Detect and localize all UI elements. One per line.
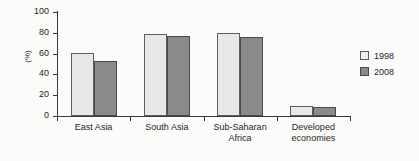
bar-2008-east-asia xyxy=(94,61,117,116)
x-axis-separator-tick xyxy=(277,117,278,121)
bar-2008-sub-saharan-africa xyxy=(240,37,263,116)
legend-swatch-icon xyxy=(360,67,369,76)
bar-2008-south-asia xyxy=(167,36,190,116)
bar-2008-developed-economies xyxy=(313,107,336,116)
y-axis-tick: 0 xyxy=(0,116,57,117)
x-axis-category-label: Developed economies xyxy=(277,122,350,144)
y-axis-tick-label: 60 xyxy=(39,48,49,59)
y-axis-tick: 100 xyxy=(0,12,57,13)
bar-1998-developed-economies xyxy=(290,106,313,116)
legend-label: 2008 xyxy=(374,67,394,77)
plot-area xyxy=(57,12,350,116)
legend-item-1998[interactable]: 1998 xyxy=(360,50,418,61)
y-axis-tick-label: 80 xyxy=(39,27,49,38)
legend-item-2008[interactable]: 2008 xyxy=(360,66,418,77)
y-axis-label: (%) xyxy=(23,44,32,70)
y-axis-tick: 40 xyxy=(0,74,57,75)
y-axis-tick: 60 xyxy=(0,54,57,55)
y-axis-tick-label: 40 xyxy=(39,68,49,79)
legend-label: 1998 xyxy=(374,51,394,61)
y-axis-tick: 20 xyxy=(0,95,57,96)
y-axis-tick-label: 20 xyxy=(39,89,49,100)
x-axis-category-label: Sub-Saharan Africa xyxy=(204,122,277,144)
bar-chart-figure: (%) 020406080100 East AsiaSouth AsiaSub-… xyxy=(0,0,419,161)
chart-legend: 19982008 xyxy=(360,50,418,82)
x-axis-separator-tick xyxy=(350,117,351,121)
x-axis-separator-tick xyxy=(204,117,205,121)
bar-1998-east-asia xyxy=(71,53,94,116)
x-axis-separator-tick xyxy=(57,117,58,121)
y-axis-tick-label: 0 xyxy=(44,110,49,121)
x-axis-category-label: South Asia xyxy=(130,122,203,133)
x-axis-separator-tick xyxy=(130,117,131,121)
y-axis-tick-label: 100 xyxy=(34,6,49,17)
bar-1998-south-asia xyxy=(144,34,167,116)
legend-swatch-icon xyxy=(360,51,369,60)
y-axis-tick: 80 xyxy=(0,33,57,34)
x-axis-category-label: East Asia xyxy=(57,122,130,133)
bar-1998-sub-saharan-africa xyxy=(217,33,240,116)
